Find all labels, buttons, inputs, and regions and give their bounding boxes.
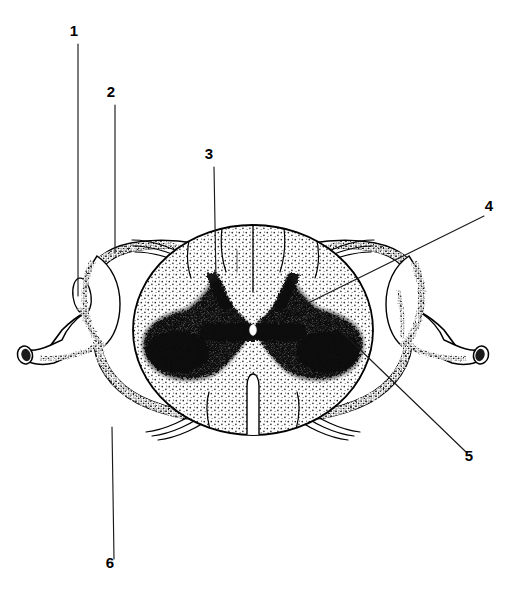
label-number-6: 6	[106, 554, 114, 571]
label-number-3: 3	[205, 145, 213, 162]
anatomical-illustration: 1 2 3 4 5 6	[0, 0, 506, 590]
anterior-median-fissure	[247, 374, 259, 436]
spinal-cord-figure: 1 2 3 4 5 6	[0, 0, 506, 590]
label-number-2: 2	[107, 83, 115, 100]
central-canal	[250, 325, 257, 336]
label-number-5: 5	[465, 447, 473, 464]
label-number-1: 1	[70, 22, 78, 39]
spinal-cord-white-matter	[133, 225, 373, 436]
label-number-4: 4	[485, 197, 494, 214]
